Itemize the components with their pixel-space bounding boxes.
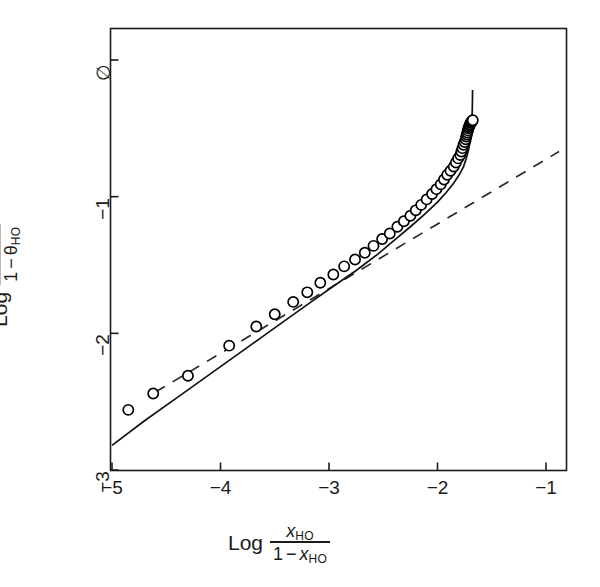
- x-tick-label: −4: [210, 477, 232, 499]
- y-tick-label: −2: [92, 332, 114, 358]
- x-tick-label: −3: [318, 477, 340, 499]
- data-point-marker: [328, 269, 338, 279]
- y-tick-label: −1: [92, 196, 114, 222]
- x-axis-ticks: [112, 463, 546, 471]
- y-axis-ticks: [111, 60, 119, 470]
- x-tick-label: −1: [535, 477, 557, 499]
- data-point-marker: [270, 309, 280, 319]
- data-point-marker: [368, 241, 378, 251]
- data-point-marker: [183, 371, 193, 381]
- data-point-marker: [350, 254, 360, 264]
- y-axis-denominator: 1−θHO: [0, 224, 20, 285]
- data-point-marker: [224, 341, 234, 351]
- data-point-markers: [123, 115, 478, 415]
- x-axis-denominator: 1−xHO: [270, 543, 330, 563]
- y-axis-fraction: θHO 1−θHO: [0, 224, 20, 285]
- data-point-marker: [251, 321, 261, 331]
- y-tick-label: ∅: [91, 60, 114, 86]
- data-point-marker: [288, 297, 298, 307]
- reference-line-dashed: [155, 152, 559, 393]
- x-tick-label: −2: [427, 477, 449, 499]
- plot-canvas: [0, 0, 600, 587]
- data-point-marker: [315, 278, 325, 288]
- x-axis-fraction: xHO 1−xHO: [270, 522, 330, 563]
- x-axis-numerator: xHO: [283, 522, 317, 541]
- x-axis-title: Log xHO 1−xHO: [228, 522, 330, 563]
- x-axis-log-label: Log: [228, 532, 263, 553]
- data-point-marker: [302, 287, 312, 297]
- data-point-marker: [148, 388, 158, 398]
- figure-container: −5−4−3−2−1 ∅−1−2−3 Log xHO 1−xHO Log θHO…: [0, 0, 600, 587]
- data-point-marker: [123, 405, 133, 415]
- plot-frame: [111, 29, 567, 471]
- data-point-marker: [468, 115, 478, 125]
- y-tick-label: −3: [92, 469, 114, 495]
- y-axis-log-label: Log: [0, 292, 10, 327]
- model-curve-solid: [112, 90, 473, 445]
- data-point-marker: [339, 261, 349, 271]
- data-point-marker: [360, 248, 370, 258]
- y-axis-title: Log θHO 1−θHO: [0, 224, 20, 327]
